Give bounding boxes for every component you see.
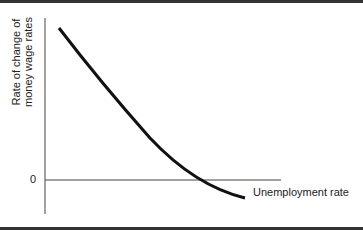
phillips-curve	[59, 28, 245, 198]
y-axis-label: Rate of change of money wage rates	[10, 12, 34, 112]
zero-tick-label: 0	[30, 173, 36, 185]
y-axis-label-line1: Rate of change of	[10, 12, 22, 112]
x-axis-label: Unemployment rate	[253, 186, 349, 198]
y-axis-label-line2: money wage rates	[22, 12, 34, 112]
